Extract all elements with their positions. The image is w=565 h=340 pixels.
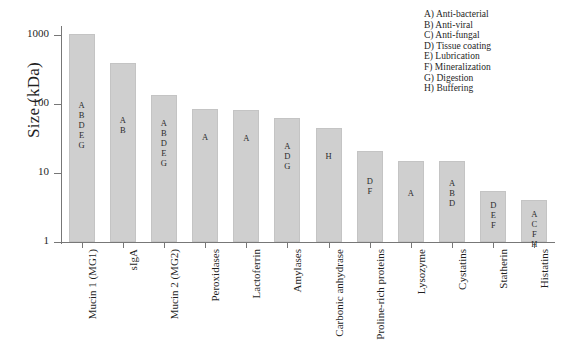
bar: ACFH [521, 200, 547, 242]
x-tick [370, 243, 371, 248]
legend-item: H) Buffering [424, 83, 491, 94]
bar: A [233, 110, 259, 242]
bar: ABDEG [69, 34, 95, 242]
x-tick [287, 243, 288, 248]
bar: DF [357, 151, 383, 242]
x-tick [205, 243, 206, 248]
bar-annotation-letter: D [275, 151, 299, 161]
bar-annotation-letter: A [152, 118, 176, 128]
x-axis-line [61, 242, 555, 243]
bar-annotation: ABD [440, 178, 464, 208]
x-tick [493, 243, 494, 248]
y-tick-label: 1 [44, 234, 50, 246]
bar-annotation: DF [358, 176, 382, 196]
bar-annotation-letter: F [522, 229, 546, 239]
bar-annotation: DEF [481, 200, 505, 230]
x-axis-label: Carbonic anhydrase [333, 249, 345, 337]
bar-annotation: A [234, 133, 258, 143]
y-tick: 1000 [54, 35, 61, 36]
x-axis-label: Amylases [291, 249, 303, 292]
bar-annotation: ABDEG [152, 118, 176, 168]
bar: ABD [439, 161, 465, 242]
legend-item: B) Anti-viral [424, 20, 491, 31]
bar-annotation-letter: D [152, 138, 176, 148]
bar-annotation: A [193, 132, 217, 142]
bar-annotation-letter: H [317, 151, 341, 161]
y-tick: 100 [54, 104, 61, 105]
legend-item: A) Anti-bacterial [424, 9, 491, 20]
x-axis-label: Peroxidases [209, 249, 221, 302]
bar-annotation: A [399, 188, 423, 198]
y-tick-label: 100 [33, 96, 50, 108]
y-axis-line [61, 26, 62, 244]
x-axis-label: Histatins [538, 249, 550, 288]
bar-annotation-letter: E [481, 210, 505, 220]
y-tick-label: 1000 [27, 27, 49, 39]
x-tick [411, 243, 412, 248]
x-axis-label: Mucin 2 (MG2) [168, 249, 180, 319]
bar-annotation-letter: D [70, 120, 94, 130]
bar: AB [110, 63, 136, 242]
bar-annotation-letter: E [70, 130, 94, 140]
bar-annotation-letter: F [481, 220, 505, 230]
bar-annotation-letter: G [275, 161, 299, 171]
bar-annotation: ADG [275, 141, 299, 171]
bar-annotation-letter: A [275, 141, 299, 151]
x-axis-label: Mucin 1 (MG1) [86, 249, 98, 319]
bar: DEF [480, 191, 506, 242]
bar-annotation-letter: B [70, 110, 94, 120]
bar: ABDEG [151, 95, 177, 242]
bar: ADG [274, 118, 300, 242]
bar-annotation: H [317, 151, 341, 161]
bar-annotation-letter: C [522, 219, 546, 229]
bar-annotation: ABDEG [70, 100, 94, 150]
bar-annotation-letter: E [152, 148, 176, 158]
bar-annotation-letter: A [440, 178, 464, 188]
x-axis-label: Cystatins [456, 249, 468, 290]
bar: A [398, 161, 424, 242]
bar-annotation-letter: A [70, 100, 94, 110]
legend-item: E) Lubrication [424, 51, 491, 62]
legend: A) Anti-bacterialB) Anti-viralC) Anti-fu… [424, 9, 491, 94]
y-tick: 1 [54, 242, 61, 243]
bar: H [316, 128, 342, 242]
bar-annotation-letter: G [152, 158, 176, 168]
x-axis-label: Statherin [497, 249, 509, 289]
bar-annotation-letter: A [193, 132, 217, 142]
bar-annotation: AB [111, 115, 135, 135]
legend-item: D) Tissue coating [424, 41, 491, 52]
bar-annotation-letter: D [440, 198, 464, 208]
x-tick [246, 243, 247, 248]
x-axis-label: Proline-rich proteins [374, 249, 386, 340]
bar-annotation-letter: F [358, 186, 382, 196]
bar: A [192, 109, 218, 242]
y-tick-label: 10 [38, 165, 49, 177]
bar-annotation-letter: D [358, 176, 382, 186]
bar-annotation-letter: G [70, 140, 94, 150]
bar-annotation-letter: H [522, 239, 546, 249]
bar-annotation: ACFH [522, 209, 546, 249]
bar-annotation-letter: B [440, 188, 464, 198]
x-tick [452, 243, 453, 248]
x-axis-label: sIgA [127, 249, 139, 270]
legend-item: F) Mineralization [424, 62, 491, 73]
x-axis-label: Lactoferrin [250, 249, 262, 298]
legend-item: C) Anti-fungal [424, 30, 491, 41]
x-axis-label: Lysozyme [415, 249, 427, 294]
x-tick [82, 243, 83, 248]
bar-annotation-letter: A [111, 115, 135, 125]
bar-annotation-letter: A [234, 133, 258, 143]
x-tick [164, 243, 165, 248]
bar-annotation-letter: B [111, 125, 135, 135]
bar-annotation-letter: A [399, 188, 423, 198]
y-tick: 10 [54, 173, 61, 174]
legend-item: G) Digestion [424, 73, 491, 84]
x-tick [123, 243, 124, 248]
bar-annotation-letter: A [522, 209, 546, 219]
bar-annotation-letter: B [152, 128, 176, 138]
bar-annotation-letter: D [481, 200, 505, 210]
x-tick [329, 243, 330, 248]
